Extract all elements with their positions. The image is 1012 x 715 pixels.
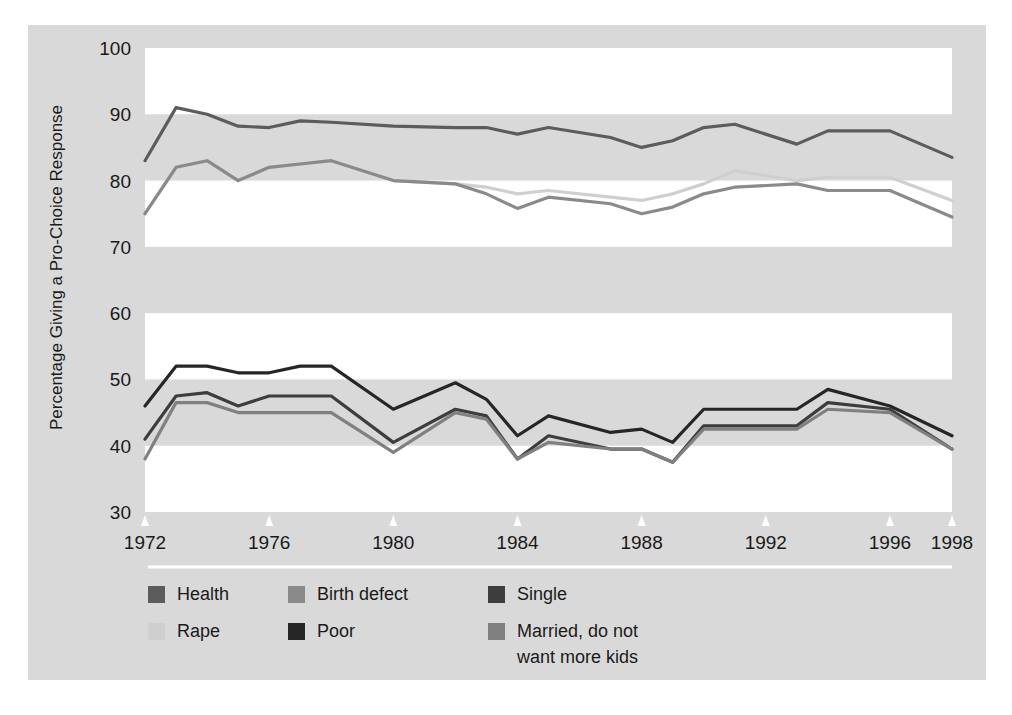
legend-swatch-single[interactable] [488, 586, 505, 603]
x-tick-mark-1988 [638, 515, 646, 526]
x-tick-label-1996: 1996 [869, 532, 911, 553]
x-tick-label-1972: 1972 [124, 532, 166, 553]
line-chart: 30405060708090100 1972197619801984198819… [0, 0, 1012, 715]
x-tick-mark-1976 [265, 515, 273, 526]
legend-swatch-married-do-not[interactable] [488, 623, 505, 640]
x-tick-mark-1980 [389, 515, 397, 526]
x-tick-label-1980: 1980 [372, 532, 414, 553]
x-tick-label-1984: 1984 [496, 532, 539, 553]
x-tick-mark-1998 [948, 515, 956, 526]
x-tick-label-1976: 1976 [248, 532, 290, 553]
legend-swatch-health[interactable] [148, 586, 165, 603]
legend-swatch-birth-defect[interactable] [288, 586, 305, 603]
y-tick-label-80: 80 [110, 171, 131, 192]
legend-label-married-do-not[interactable]: Married, do not [517, 621, 638, 641]
legend-label-rape[interactable]: Rape [177, 621, 220, 641]
x-tick-mark-1992 [762, 515, 770, 526]
plot-series-lines [145, 108, 952, 463]
x-tick-mark-1972 [141, 515, 149, 526]
x-axis-tick-labels: 19721976198019841988199219961998 [124, 532, 973, 553]
y-tick-label-100: 100 [99, 38, 131, 59]
legend-label-birth-defect[interactable]: Birth defect [317, 584, 408, 604]
legend-swatch-poor[interactable] [288, 623, 305, 640]
y-band-white-0 [145, 48, 952, 114]
y-axis-tick-labels: 30405060708090100 [99, 38, 131, 523]
x-tick-mark-1996 [886, 515, 894, 526]
x-tick-mark-1984 [513, 515, 521, 526]
y-tick-label-30: 30 [110, 502, 131, 523]
y-tick-label-90: 90 [110, 104, 131, 125]
x-tick-label-1988: 1988 [620, 532, 662, 553]
y-axis-title: Percentage Giving a Pro-Choice Response [47, 105, 66, 430]
legend-swatch-rape[interactable] [148, 623, 165, 640]
y-axis-title-text: Percentage Giving a Pro-Choice Response [47, 105, 66, 430]
x-tick-label-1992: 1992 [745, 532, 787, 553]
legend-label-single[interactable]: Single [517, 584, 567, 604]
chart-legend: HealthRapeBirth defectPoorSingleMarried,… [148, 584, 638, 667]
series-line-health [145, 108, 952, 161]
y-tick-label-70: 70 [110, 237, 131, 258]
y-band-white-3 [145, 446, 952, 512]
figure-root: 30405060708090100 1972197619801984198819… [0, 0, 1012, 715]
x-tick-label-1998: 1998 [931, 532, 973, 553]
legend-label-poor[interactable]: Poor [317, 621, 355, 641]
legend-label-health[interactable]: Health [177, 584, 229, 604]
y-tick-label-60: 60 [110, 303, 131, 324]
x-axis-tick-marks [141, 515, 956, 526]
y-band-white-2 [145, 313, 952, 379]
y-tick-label-50: 50 [110, 369, 131, 390]
legend-label-continuation[interactable]: want more kids [516, 647, 638, 667]
y-tick-label-40: 40 [110, 436, 131, 457]
